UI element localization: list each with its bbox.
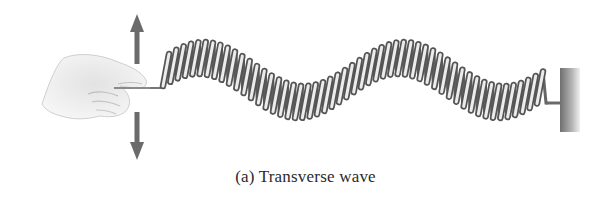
arrow-up-icon (130, 14, 144, 64)
fixed-wall (546, 68, 580, 132)
hand-icon (42, 55, 164, 119)
arrow-down-icon (130, 112, 144, 160)
figure-caption: (a) Transverse wave (0, 167, 611, 187)
coiled-spring (150, 42, 548, 118)
